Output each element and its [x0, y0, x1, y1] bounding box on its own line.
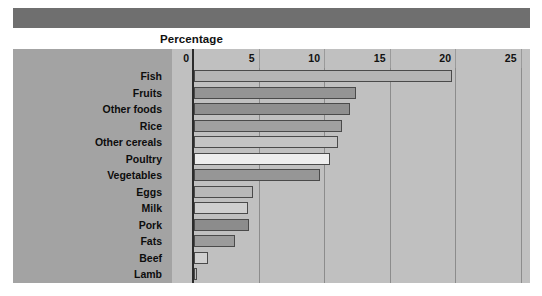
bar-row: [13, 134, 530, 151]
x-axis-tick-row: 0510152025: [13, 49, 530, 68]
bar-poultry: [194, 153, 330, 165]
bar-rice: [194, 120, 342, 132]
bar-fish: [194, 70, 452, 82]
bar-row: [13, 68, 530, 85]
bar-row: [13, 217, 530, 234]
gridline-header-15: [390, 49, 391, 68]
bar-fruits: [194, 87, 356, 99]
bar-row: [13, 200, 530, 217]
x-tick-label-10: 10: [264, 50, 320, 67]
bar-milk: [194, 202, 248, 214]
x-tick-label-15: 15: [330, 50, 386, 67]
bar-other-cereals: [194, 136, 338, 148]
top-decorative-band: [13, 8, 530, 28]
bar-row: [13, 118, 530, 135]
bar-row: [13, 151, 530, 168]
gridline-header-20: [455, 49, 456, 68]
x-tick-label-5: 5: [199, 50, 255, 67]
bar-row: [13, 184, 530, 201]
gridline-header-25: [521, 49, 522, 68]
gridline-header-5: [259, 49, 260, 68]
bar-row: [13, 101, 530, 118]
bar-other-foods: [194, 103, 350, 115]
axis-title: Percentage: [13, 31, 223, 47]
bar-row: [13, 85, 530, 102]
bar-vegetables: [194, 169, 320, 181]
gridline-header-10: [324, 49, 325, 68]
bar-eggs: [194, 186, 253, 198]
bar-row: [13, 266, 530, 283]
bars-layer: [13, 68, 530, 283]
x-tick-label-25: 25: [461, 50, 517, 67]
x-tick-label-0: 0: [133, 50, 189, 67]
bar-beef: [194, 252, 208, 264]
bar-fats: [194, 235, 235, 247]
chart-frame: 0510152025 FishFruitsOther foodsRiceOthe…: [13, 49, 530, 283]
bar-lamb: [194, 268, 197, 280]
bar-row: [13, 233, 530, 250]
x-tick-label-20: 20: [395, 50, 451, 67]
bar-pork: [194, 219, 249, 231]
bar-row: [13, 250, 530, 267]
bar-row: [13, 167, 530, 184]
chart-screenshot: Percentage 0510152025 FishFruitsOther fo…: [0, 0, 542, 296]
